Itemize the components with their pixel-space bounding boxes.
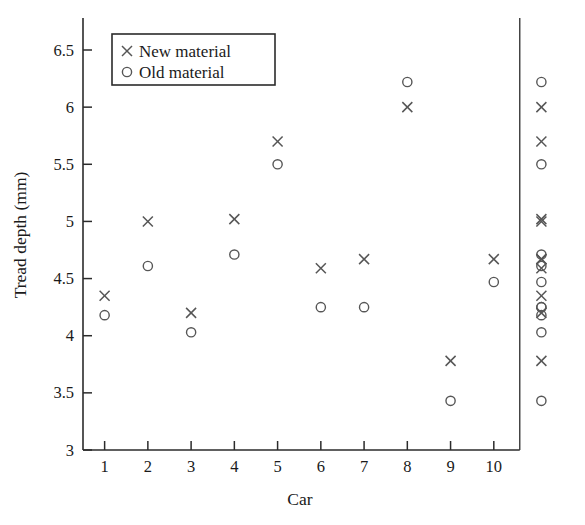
data-point-circle: [359, 303, 368, 312]
x-tick-label: 3: [187, 457, 195, 476]
data-point-circle: [403, 77, 412, 86]
data-point-circle: [100, 311, 109, 320]
data-point-circle: [489, 277, 498, 286]
data-point-cross: [316, 263, 326, 273]
data-point-cross: [229, 214, 239, 224]
marginal-points-layer: [536, 77, 546, 405]
data-point-cross: [359, 254, 369, 264]
y-tick-label: 3: [66, 441, 74, 460]
x-axis-ticks: 12345678910: [100, 441, 502, 476]
data-point-cross: [446, 356, 456, 366]
data-point-cross: [402, 102, 412, 112]
y-axis-title: Tread depth (mm): [10, 171, 30, 298]
data-point-circle: [446, 396, 455, 405]
legend: New material Old material: [112, 34, 275, 85]
marginal-point-circle: [537, 277, 546, 286]
x-tick-label: 6: [317, 457, 325, 476]
data-point-circle: [143, 261, 152, 270]
x-tick-label: 9: [446, 457, 454, 476]
marginal-point-cross: [536, 216, 546, 226]
data-point-circle: [316, 303, 325, 312]
marginal-point-circle: [537, 160, 546, 169]
x-tick-label: 10: [486, 457, 503, 476]
data-point-circle: [273, 160, 282, 169]
legend-label-new-material: New material: [139, 42, 231, 61]
x-tick-label: 2: [144, 457, 152, 476]
marginal-point-cross: [536, 102, 546, 112]
x-tick-label: 5: [273, 457, 281, 476]
y-tick-label: 6.5: [53, 41, 74, 60]
marginal-point-cross: [536, 356, 546, 366]
y-axis-ticks: 33.544.555.566.5: [53, 41, 92, 460]
y-tick-label: 3.5: [53, 383, 74, 402]
x-tick-label: 1: [100, 457, 108, 476]
marginal-point-cross: [536, 291, 546, 301]
data-point-cross: [143, 216, 153, 226]
x-tick-label: 7: [360, 457, 368, 476]
x-axis-title: Car: [287, 489, 312, 509]
marginal-point-circle: [537, 396, 546, 405]
x-tick-label: 4: [230, 457, 238, 476]
scatter-chart: 33.544.555.566.5 12345678910 Tread depth…: [0, 0, 585, 525]
data-points-layer: [100, 77, 499, 405]
data-point-circle: [187, 328, 196, 337]
data-point-cross: [489, 254, 499, 264]
legend-label-old-material: Old material: [139, 63, 225, 82]
data-point-cross: [273, 136, 283, 146]
data-point-circle: [230, 250, 239, 259]
marginal-point-circle: [537, 328, 546, 337]
data-point-cross: [100, 291, 110, 301]
y-tick-label: 4: [66, 326, 74, 345]
y-tick-label: 6: [66, 98, 74, 117]
y-tick-label: 4.5: [53, 269, 74, 288]
marginal-point-cross: [536, 136, 546, 146]
y-tick-label: 5.5: [53, 155, 74, 174]
marginal-point-cross: [536, 214, 546, 224]
marginal-point-circle: [537, 250, 546, 259]
data-point-cross: [186, 308, 196, 318]
marginal-point-circle: [537, 77, 546, 86]
plot-canvas: 33.544.555.566.5 12345678910 Tread depth…: [0, 0, 585, 525]
legend-item-new-material: New material: [122, 42, 231, 61]
x-tick-label: 8: [403, 457, 411, 476]
y-tick-label: 5: [66, 212, 74, 231]
